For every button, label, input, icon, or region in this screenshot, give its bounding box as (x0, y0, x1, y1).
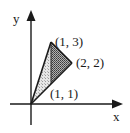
y-axis-arrow-icon (27, 10, 36, 21)
point-label-1-1: (1, 1) (50, 87, 78, 100)
y-axis-label: y (13, 12, 20, 25)
point-label-2-2: (2, 2) (76, 56, 104, 69)
triangle-diagram: y x (1, 3) (2, 2) (1, 1) (0, 0, 130, 133)
x-axis-arrow-icon (112, 100, 123, 109)
point-label-1-3: (1, 3) (55, 35, 83, 48)
x-axis-label: x (113, 110, 120, 123)
